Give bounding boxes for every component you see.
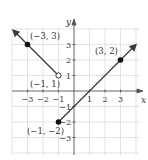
x-tick: 1 [87, 95, 92, 104]
y-tick: 1 [66, 72, 71, 81]
x-tick: −2 [37, 95, 49, 104]
y-tick: −1 [59, 103, 71, 112]
x-tick-labels: −3 −2 −1 1 2 3 [22, 95, 123, 104]
piecewise-graph: x y −3 −2 −1 1 2 3 3 2 1 −1 −2 −3 (−3, 3… [0, 0, 148, 160]
label-point-neg3-3: (−3, 3) [30, 31, 60, 41]
label-point-neg1-1: (−1, 1) [30, 79, 60, 89]
y-tick: 2 [66, 56, 71, 65]
point-neg1-1-open [56, 73, 61, 78]
y-tick: 3 [66, 41, 71, 50]
x-axis-arrow-icon [137, 89, 143, 93]
point-neg3-3-filled [25, 42, 31, 48]
y-axis-label: y [65, 17, 72, 27]
point-3-2-filled [118, 57, 124, 63]
x-tick: 2 [102, 95, 107, 104]
x-tick: −3 [22, 95, 34, 104]
point-neg1-neg2-filled [56, 119, 62, 125]
label-point-neg1-neg2: (−1, −2) [27, 126, 64, 136]
y-axis-arrow-icon [72, 19, 76, 25]
label-point-3-2: (3, 2) [95, 46, 118, 56]
x-tick: 3 [118, 95, 123, 104]
x-axis-label: x [141, 95, 146, 105]
point-labels: (−3, 3) (−1, 1) (3, 2) (−1, −2) [27, 31, 118, 136]
